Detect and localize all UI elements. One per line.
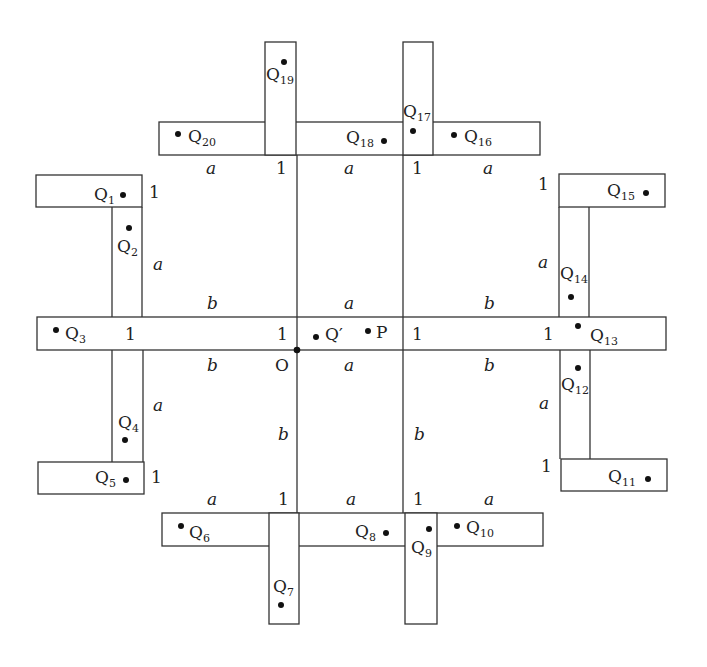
- point-p-dot: [365, 328, 371, 334]
- point-q8-dot: [383, 530, 389, 536]
- point-q5-label: Q5: [95, 467, 116, 490]
- dim-bottom-a1: a: [207, 489, 217, 509]
- point-q4-dot: [122, 437, 128, 443]
- dim-top-a2: a: [344, 158, 354, 178]
- point-q7-dot: [278, 602, 284, 608]
- point-q11-label: Q11: [608, 466, 636, 489]
- bar-one-left-strip: 1: [125, 324, 136, 344]
- point-q1-dot: [120, 192, 126, 198]
- point-q19-dot: [281, 59, 287, 65]
- point-q2-label: Q2: [117, 236, 138, 259]
- dim-top-a1: a: [206, 158, 216, 178]
- dim-top-1b: 1: [412, 158, 423, 178]
- dim-left-b-top: b: [207, 293, 218, 313]
- point-q18-label: Q18: [346, 127, 374, 150]
- dim-bottom-a2: a: [346, 489, 356, 509]
- left-top-box: [36, 175, 142, 207]
- point-q14-label: Q14: [560, 263, 588, 286]
- dim-center-b-left: b: [278, 424, 289, 444]
- point-q6-dot: [178, 523, 184, 529]
- dim-bottom-1a: 1: [278, 489, 289, 509]
- point-q-prime-dot: [313, 334, 319, 340]
- dim-right-1-bottom: 1: [541, 456, 552, 476]
- point-q6-label: Q6: [189, 522, 210, 545]
- point-q20-label: Q20: [188, 126, 216, 149]
- point-q12-label: Q12: [561, 374, 589, 397]
- point-q5-dot: [123, 477, 129, 483]
- point-q20-dot: [175, 131, 181, 137]
- dim-right-a-top: a: [538, 252, 548, 272]
- dim-top-a3: a: [483, 158, 493, 178]
- dim-bottom-a3: a: [484, 489, 494, 509]
- point-q-prime-label: Q′: [325, 324, 343, 344]
- dim-right-b-top: b: [484, 293, 495, 313]
- point-q18-dot: [381, 138, 387, 144]
- point-q10-label: Q10: [466, 517, 494, 540]
- point-q13-label: Q13: [590, 325, 618, 348]
- point-q16-label: Q16: [464, 126, 492, 149]
- dim-top-1a: 1: [276, 158, 287, 178]
- point-q4-label: Q4: [118, 412, 139, 435]
- bar-one-center-left: 1: [277, 324, 288, 344]
- origin-dot: [294, 347, 301, 354]
- point-p-label: P: [376, 322, 387, 342]
- dim-left-b-bottom: b: [207, 355, 218, 375]
- bar-one-center-right: 1: [412, 324, 423, 344]
- top-vertical-right: [403, 42, 433, 155]
- dim-right-a-bottom: a: [539, 393, 549, 413]
- dim-left-a-top: a: [153, 254, 163, 274]
- point-q15-dot: [643, 190, 649, 196]
- origin-label: O: [275, 355, 289, 375]
- dim-center-a-below: a: [344, 355, 354, 375]
- point-q2-dot: [126, 225, 132, 231]
- diagram-canvas: a 1 a 1 a a 1 a 1 a 1 a b b a 1 1 a b b …: [0, 0, 707, 667]
- bar-one-right-strip: 1: [543, 324, 554, 344]
- dim-bottom-1b: 1: [413, 489, 424, 509]
- point-q3-dot: [53, 327, 59, 333]
- point-q10-dot: [454, 523, 460, 529]
- point-q16-dot: [451, 132, 457, 138]
- point-q8-label: Q8: [355, 521, 376, 544]
- point-q15-label: Q15: [607, 180, 635, 203]
- point-q12-dot: [575, 365, 581, 371]
- point-q9-dot: [426, 526, 432, 532]
- dim-left-1-bottom: 1: [151, 467, 162, 487]
- top-vertical-left: [265, 42, 296, 155]
- points: Q1 Q2 Q3 Q4 Q5 Q6 Q7 Q8 Q9 Q10 Q11 Q12: [53, 59, 651, 608]
- bottom-vertical-left: [269, 513, 299, 624]
- point-q17-dot: [410, 128, 416, 134]
- dim-center-a-above: a: [344, 293, 354, 313]
- point-q14-dot: [568, 294, 574, 300]
- point-q3-label: Q3: [65, 323, 86, 346]
- dim-left-1-top: 1: [149, 182, 160, 202]
- point-q1-label: Q1: [94, 184, 115, 207]
- dim-right-b-bottom: b: [484, 355, 495, 375]
- dim-center-b-right: b: [414, 424, 425, 444]
- point-q13-dot: [575, 323, 581, 329]
- point-q11-dot: [645, 476, 651, 482]
- dim-right-1-top: 1: [538, 174, 549, 194]
- dim-left-a-bottom: a: [153, 395, 163, 415]
- bottom-vertical-right: [405, 513, 437, 624]
